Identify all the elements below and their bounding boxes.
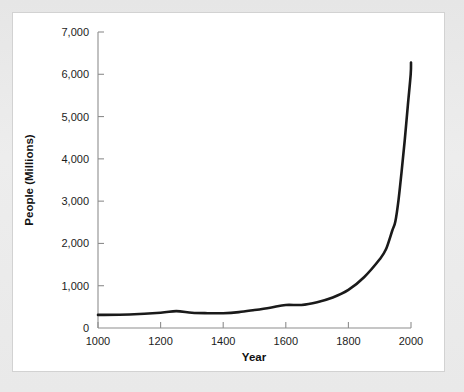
figure-root: 01,0002,0003,0004,0005,0006,0007,000 100… <box>0 0 464 392</box>
x-tick-label: 1400 <box>211 335 235 347</box>
y-tick-label: 3,000 <box>61 195 89 207</box>
x-axis-tick-marks <box>98 322 411 328</box>
x-axis-tick-labels: 100012001400160018002000 <box>86 335 423 347</box>
x-tick-label: 1000 <box>86 335 110 347</box>
x-tick-label: 1600 <box>274 335 298 347</box>
y-axis-title: People (Millions) <box>23 134 35 226</box>
x-tick-label: 1200 <box>148 335 172 347</box>
y-tick-label: 5,000 <box>61 111 89 123</box>
y-tick-label: 4,000 <box>61 153 89 165</box>
y-axis-tick-labels: 01,0002,0003,0004,0005,0006,0007,000 <box>61 26 89 334</box>
population-line-chart: 01,0002,0003,0004,0005,0006,0007,000 100… <box>13 13 444 371</box>
y-tick-label: 6,000 <box>61 68 89 80</box>
y-tick-label: 2,000 <box>61 237 89 249</box>
population-curve <box>98 62 411 314</box>
x-tick-label: 2000 <box>399 335 423 347</box>
y-tick-label: 1,000 <box>61 280 89 292</box>
x-tick-label: 1800 <box>336 335 360 347</box>
chart-panel: 01,0002,0003,0004,0005,0006,0007,000 100… <box>12 12 445 372</box>
y-tick-label: 7,000 <box>61 26 89 38</box>
y-tick-label: 0 <box>83 322 89 334</box>
y-axis-tick-marks <box>98 32 104 286</box>
x-axis-title: Year <box>242 351 267 363</box>
